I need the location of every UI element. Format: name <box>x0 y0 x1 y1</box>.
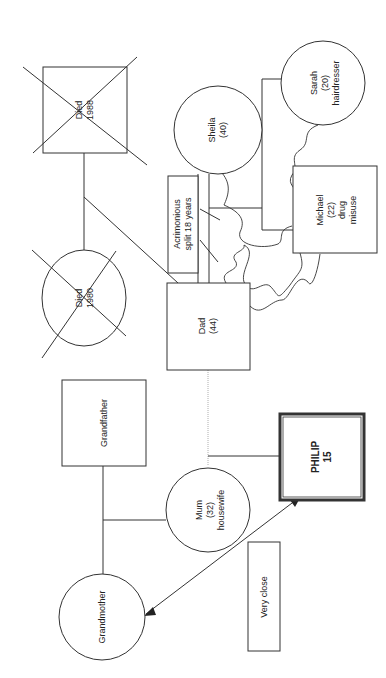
label-line3: drug <box>337 201 347 219</box>
person-sheila[interactable]: Sheila (40) <box>174 86 262 174</box>
person-grandmother[interactable]: Grandmother <box>59 574 145 660</box>
divorce-slash-1 <box>200 209 220 220</box>
label-line2: (20) <box>320 75 330 91</box>
label-line3: housewife <box>216 490 226 531</box>
label-line2: (44) <box>208 318 218 334</box>
label-line2: (22) <box>326 202 336 218</box>
label-line1: Mum <box>194 500 204 520</box>
label-line1: Died <box>74 101 84 120</box>
label-line1: Michael <box>315 194 325 225</box>
annotation-line2: split 18 years <box>183 197 193 251</box>
person-mum[interactable]: Mum (32) housewife <box>166 468 250 552</box>
person-philip[interactable]: PHILIP 15 <box>280 414 364 500</box>
person-grandfather[interactable]: Grandfather <box>62 380 146 466</box>
conflict-dad-michael-lower <box>250 254 320 310</box>
label-line1: Dad <box>197 318 207 335</box>
label-line1: Grandmother <box>97 590 107 643</box>
label-line2: 1988 <box>85 100 95 120</box>
label-line2: (32) <box>205 502 215 518</box>
label-line1: Sarah <box>309 71 319 95</box>
annotation-line1: Acrimonious <box>172 199 182 249</box>
label-line2: 15 <box>322 451 333 463</box>
label-line2: (40) <box>218 122 228 138</box>
label-line4: misuse <box>348 196 358 225</box>
label-line1: Sheila <box>207 117 217 142</box>
annotation-acrimonious-split: Acrimonious split 18 years <box>168 176 198 273</box>
person-michael[interactable]: Michael (22) drug misuse <box>293 166 377 253</box>
annotation-very-close: Very close <box>248 542 280 651</box>
person-died-1988[interactable]: Died 1988 <box>23 57 147 165</box>
label-line1: Grandfather <box>99 399 109 447</box>
label-line3: hairdresser <box>331 60 341 105</box>
label-line2: 1980 <box>85 288 95 308</box>
label-line1: Died <box>74 289 84 308</box>
annotation-line1: Very close <box>259 576 269 618</box>
person-sarah[interactable]: Sarah (20) hairdresser <box>281 41 365 125</box>
person-died-1980[interactable]: Died 1980 <box>32 250 126 358</box>
conflict-sheila-michael <box>222 173 292 247</box>
person-dad[interactable]: Dad (44) <box>167 283 250 370</box>
genogram-diagram: Died 1988 Died 1980 Sheila (40) Sarah (2… <box>0 0 386 678</box>
label-line1: PHILIP <box>310 441 321 474</box>
